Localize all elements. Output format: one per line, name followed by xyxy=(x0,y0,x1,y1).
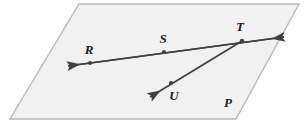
point-t-label: T xyxy=(236,19,245,34)
point-t-dot xyxy=(240,39,245,44)
point-r-label: R xyxy=(84,42,94,57)
point-u-dot xyxy=(169,81,173,85)
geometry-diagram: R S T U P xyxy=(0,0,306,125)
point-r-dot xyxy=(88,61,92,65)
plane-label: P xyxy=(224,95,233,110)
point-u-label: U xyxy=(169,88,179,103)
geometry-figure-svg: R S T U P xyxy=(0,0,306,125)
point-s-label: S xyxy=(159,31,166,46)
point-s-dot xyxy=(162,50,166,54)
plane-parallelogram xyxy=(10,4,299,119)
